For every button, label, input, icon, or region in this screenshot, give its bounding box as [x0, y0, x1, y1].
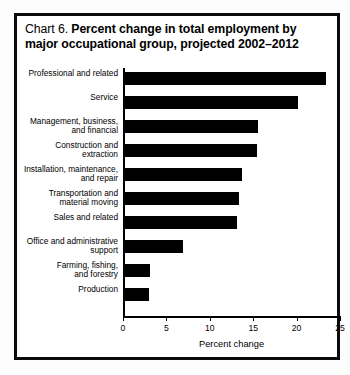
bar-row: Office and administrative support	[123, 239, 340, 263]
plot-area: Professional and relatedServiceManagemen…	[123, 71, 340, 316]
category-label: Farming, fishing, and forestry	[0, 261, 118, 280]
category-label: Professional and related	[0, 69, 118, 78]
x-tick-label: 25	[335, 323, 345, 333]
chart-title-line-2: major occupational group, projected 2002…	[25, 37, 329, 52]
x-tick-label: 0	[121, 323, 126, 333]
category-label: Transportation and material moving	[0, 189, 118, 208]
x-tick	[340, 316, 341, 321]
x-tick	[210, 316, 211, 321]
category-label: Sales and related	[0, 213, 118, 222]
bar-row: Farming, fishing, and forestry	[123, 263, 340, 287]
chart-title-text-1: Percent change in total employment by	[71, 22, 296, 36]
bar-row: Professional and related	[123, 71, 340, 95]
bar	[124, 144, 257, 157]
x-axis-label: Percent change	[123, 339, 340, 349]
category-label: Management, business, and financial	[0, 117, 118, 136]
x-tick-label: 15	[248, 323, 258, 333]
chart-title: Chart 6. Percent change in total employm…	[25, 22, 329, 52]
chart-title-line-1: Chart 6. Percent change in total employm…	[25, 22, 329, 37]
bar-row: Sales and related	[123, 215, 340, 239]
x-tick-label: 10	[205, 323, 215, 333]
bar-row: Management, business, and financial	[123, 119, 340, 143]
category-label: Office and administrative support	[0, 237, 118, 256]
chart-number-label: Chart 6.	[25, 22, 68, 36]
bar	[124, 96, 298, 109]
category-label: Production	[0, 285, 118, 294]
x-tick	[123, 316, 124, 321]
category-label: Installation, maintenance, and repair	[0, 165, 118, 184]
bar	[124, 240, 183, 253]
bar	[124, 288, 149, 301]
bar-row: Service	[123, 95, 340, 119]
bar	[124, 72, 326, 85]
x-tick	[166, 316, 167, 321]
bar-row: Production	[123, 287, 340, 311]
bar-row: Transportation and material moving	[123, 191, 340, 215]
bar	[124, 264, 150, 277]
x-axis-line	[123, 316, 340, 318]
bar	[124, 216, 237, 229]
x-tick-label: 5	[164, 323, 169, 333]
category-label: Service	[0, 93, 118, 102]
chart-figure: Chart 6. Percent change in total employm…	[0, 0, 350, 375]
bar	[124, 192, 239, 205]
x-tick-label: 20	[292, 323, 302, 333]
bar-row: Construction and extraction	[123, 143, 340, 167]
chart-frame: Chart 6. Percent change in total employm…	[14, 13, 340, 360]
x-tick	[253, 316, 254, 321]
bar-row: Installation, maintenance, and repair	[123, 167, 340, 191]
bar	[124, 120, 258, 133]
bar	[124, 168, 242, 181]
category-label: Construction and extraction	[0, 141, 118, 160]
x-tick	[297, 316, 298, 321]
